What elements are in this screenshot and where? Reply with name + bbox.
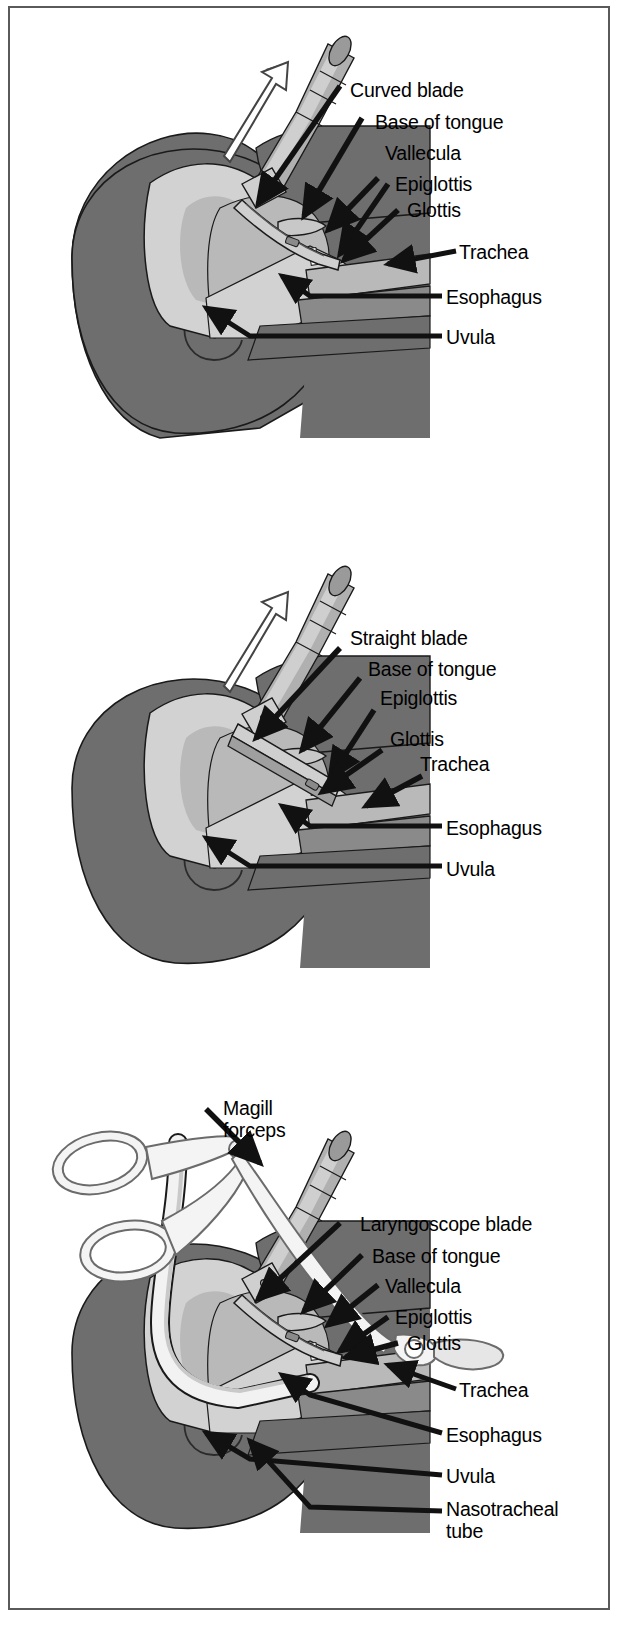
figure-frame: Curved blade Base of tongue Vallecula Ep…	[8, 6, 610, 1610]
label-glottis-3: Glottis	[407, 1333, 461, 1354]
nasotracheal-illustration	[10, 8, 612, 1612]
label-epiglottis-3: Epiglottis	[395, 1307, 472, 1328]
label-magill-forceps: Magill forceps	[223, 1097, 286, 1141]
label-vallecula-3: Vallecula	[385, 1276, 461, 1297]
label-laryngoscope-blade: Laryngoscope blade	[360, 1214, 532, 1235]
label-nasotracheal-tube: Nasotracheal tube	[446, 1498, 559, 1542]
label-uvula-3: Uvula	[446, 1466, 495, 1487]
label-esophagus-3: Esophagus	[446, 1425, 542, 1446]
label-base-of-tongue-3: Base of tongue	[372, 1246, 500, 1267]
label-trachea-3: Trachea	[459, 1380, 528, 1401]
